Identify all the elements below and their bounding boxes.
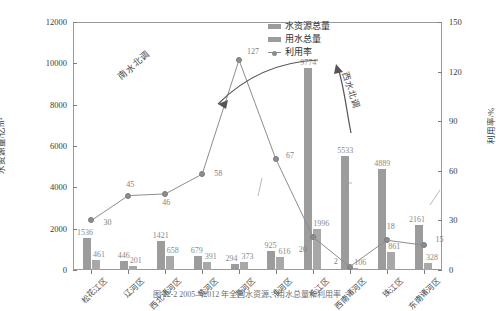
bar-value-label: 328 — [426, 253, 438, 262]
y-axis-right-tick-label: 60 — [449, 166, 479, 176]
bar-value-label: 446 — [118, 251, 130, 260]
bar-water-use-total — [166, 256, 174, 270]
utilization-rate-value-label: 30 — [103, 218, 111, 227]
bar-value-label: 925 — [264, 241, 276, 250]
utilization-rate-value-label: 46 — [162, 198, 170, 207]
x-axis-tick — [128, 270, 129, 274]
y-axis-left-tick — [73, 187, 77, 188]
y-axis-right-tick-label: 150 — [449, 17, 479, 27]
bar-value-label: 1536 — [77, 228, 93, 237]
x-axis-tick — [239, 270, 240, 274]
bar-water-resource-total — [267, 251, 275, 270]
y-axis-left-tick-label: 10000 — [27, 58, 67, 68]
utilization-rate-value-label: 127 — [247, 47, 259, 56]
line-marker-utilization-rate — [310, 234, 316, 240]
bar-value-label: 2161 — [409, 215, 425, 224]
y-axis-left-tick — [73, 63, 77, 64]
y-axis-left-tick — [73, 146, 77, 147]
figure-caption: 图 22-2 2005—2012 年全国水资源、用水总量和利用率 — [0, 288, 494, 299]
bar-water-resource-total — [157, 241, 165, 270]
x-axis-tick — [91, 270, 92, 274]
bar-water-resource-total — [194, 256, 202, 270]
line-marker-utilization-rate — [273, 156, 279, 162]
bar-value-label: 201 — [130, 256, 142, 265]
bar-value-label: 5533 — [337, 146, 353, 155]
y-axis-right-tick-label: 30 — [449, 215, 479, 225]
y-axis-left-tick-label: 2000 — [27, 224, 67, 234]
x-axis-tick — [387, 270, 388, 274]
bar-water-resource-total — [378, 169, 386, 270]
legend-item-water-resource-total: 水资源总量 — [268, 20, 330, 33]
y-axis-left-tick-label: 4000 — [27, 182, 67, 192]
bar-value-label: 861 — [388, 242, 400, 251]
bar-value-label: 616 — [278, 247, 290, 256]
y-axis-right-tick — [438, 121, 442, 122]
bar-value-label: 294 — [226, 254, 238, 263]
legend: 水资源总量 用水总量 利用率 — [268, 20, 330, 59]
bar-water-use-total — [387, 252, 395, 270]
bar-value-label: 391 — [205, 252, 217, 261]
utilization-rate-value-label: 2 — [334, 257, 338, 266]
legend-item-water-use-total: 用水总量 — [268, 33, 330, 46]
y-axis-left-tick-label: 0 — [27, 265, 67, 275]
legend-swatch-icon — [268, 37, 281, 42]
bar-value-label: 373 — [242, 252, 254, 261]
utilization-rate-value-label: 15 — [436, 235, 444, 244]
bar-water-use-total — [203, 262, 211, 270]
utilization-rate-value-label: 67 — [286, 151, 294, 160]
legend-line-dot-icon — [268, 50, 281, 55]
legend-label: 用水总量 — [285, 33, 321, 46]
utilization-rate-value-label: 20 — [299, 245, 307, 254]
x-axis-tick — [424, 270, 425, 274]
line-marker-utilization-rate — [199, 171, 205, 177]
line-marker-utilization-rate — [162, 191, 168, 197]
legend-label: 利用率 — [285, 46, 312, 59]
line-marker-utilization-rate — [125, 193, 131, 199]
bar-value-label: 106 — [354, 258, 366, 267]
line-marker-utilization-rate — [421, 242, 427, 248]
bar-water-resource-total — [341, 156, 349, 270]
y-axis-right-tick-label: 0 — [449, 265, 479, 275]
y-axis-title-right: 利用率/% — [484, 108, 496, 144]
bar-value-label: 679 — [191, 246, 203, 255]
bar-water-use-total — [240, 262, 248, 270]
y-axis-left-tick — [73, 270, 77, 271]
bar-value-label: 9774 — [300, 58, 316, 67]
utilization-rate-value-label: 58 — [214, 169, 222, 178]
x-axis-tick — [202, 270, 203, 274]
y-axis-left-tick — [73, 105, 77, 106]
utilization-rate-value-label: 18 — [387, 222, 395, 231]
bar-value-label: 1421 — [153, 231, 169, 240]
bar-value-label: 461 — [93, 250, 105, 259]
x-axis-tick — [350, 270, 351, 274]
legend-label: 水资源总量 — [285, 20, 330, 33]
bar-water-resource-total — [120, 261, 128, 270]
legend-swatch-icon — [268, 24, 281, 29]
x-axis-tick — [165, 270, 166, 274]
y-axis-title-left: 水资源量/亿m³ — [0, 118, 6, 175]
bar-water-use-total — [129, 266, 137, 270]
bar-water-use-total — [276, 257, 284, 270]
bar-value-label: 1996 — [313, 219, 329, 228]
x-axis-tick — [276, 270, 277, 274]
y-axis-right-tick — [438, 171, 442, 172]
line-marker-utilization-rate — [236, 57, 242, 63]
line-marker-utilization-rate — [384, 237, 390, 243]
y-axis-left-tick-label: 12000 — [27, 17, 67, 27]
bar-water-resource-total — [231, 264, 239, 270]
y-axis-right-tick — [438, 270, 442, 271]
y-axis-right-tick-label: 120 — [449, 67, 479, 77]
y-axis-right-tick — [438, 72, 442, 73]
line-marker-utilization-rate — [88, 217, 94, 223]
bar-water-use-total — [92, 260, 100, 270]
bar-water-use-total — [424, 263, 432, 270]
y-axis-left-tick-label: 8000 — [27, 100, 67, 110]
y-axis-right-tick — [438, 22, 442, 23]
bar-water-resource-total — [83, 238, 91, 270]
bar-value-label: 4889 — [374, 159, 390, 168]
y-axis-right-tick-label: 90 — [449, 116, 479, 126]
line-marker-utilization-rate — [347, 264, 353, 270]
y-axis-left-tick-label: 6000 — [27, 141, 67, 151]
utilization-rate-value-label: 45 — [126, 180, 134, 189]
